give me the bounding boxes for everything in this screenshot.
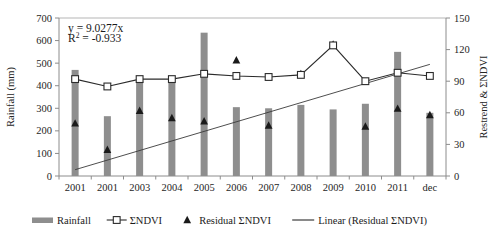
x-axis-tick-label: 2011 [387,182,408,193]
right-axis-tick-label: 60 [454,107,465,118]
legend-label: Residual ΣNDVI [199,215,271,226]
legend-item: ΣNDVI [107,215,163,226]
ndvi-square-marker [426,73,433,80]
ndvi-square-marker [265,74,272,81]
ndvi-square-marker [394,69,401,76]
ndvi-square-marker [233,73,240,80]
left-axis-tick-label: 500 [36,58,52,69]
rainfall-bar [297,105,304,176]
right-axis-tick-label: 90 [454,76,465,87]
ndvi-square-marker [362,78,369,85]
left-axis-tick-label: 700 [36,13,52,24]
right-axis-tick-label: 0 [454,171,459,182]
residual-triangle-marker [233,56,241,63]
rainfall-bar [426,113,433,176]
ndvi-square-marker [297,71,304,78]
ndvi-square-marker [168,76,175,83]
right-axis-tick-label: 150 [454,13,470,24]
x-axis-tick-label: 2010 [355,182,376,193]
left-axis-tick-label: 400 [36,80,52,91]
ndvi-square-marker [136,76,143,83]
rainfall-bar [233,107,240,176]
x-axis-tick-label: 2004 [161,182,183,193]
legend-label: ΣNDVI [130,215,163,226]
legend-label: Rainfall [57,215,91,226]
rainfall-bar [168,82,175,176]
x-axis-tick-label: 2008 [290,182,311,193]
legend-label: Linear (Residual ΣNDVI) [318,215,427,227]
left-axis-tick-label: 300 [36,103,52,114]
ndvi-square-marker [201,70,208,77]
legend-item: Rainfall [32,215,91,226]
ndvi-square-marker [104,83,111,90]
legend-marker-ndvi [113,217,120,224]
residual-triangles [71,40,433,153]
rainfall-bar [265,108,272,176]
x-axis-tick-label: 2007 [258,182,279,193]
left-axis-title: Rainfall (mm) [5,67,17,127]
rainfall-bar [362,104,369,176]
ndvi-square-marker [72,76,79,83]
left-axis-tick-label: 0 [47,171,52,182]
linear-trend-line [75,64,430,169]
right-axis-tick-label: 120 [454,44,470,55]
rainfall-bar [330,109,337,176]
chart-container: 0100200300400500600700Rainfall (mm)03060… [0,0,494,239]
x-axis-tick-label: 2001 [97,182,118,193]
legend-item: Linear (Residual ΣNDVI) [292,215,427,227]
legend-item: Residual ΣNDVI [183,215,271,226]
left-axis-tick-label: 100 [36,148,52,159]
chart-legend: RainfallΣNDVIResidual ΣNDVILinear (Resid… [32,215,427,227]
x-axis-tick-label: 2003 [129,182,150,193]
right-axis-title: Restrend & ΣNDVI [478,55,489,139]
rainfall-bar [201,33,208,176]
rainfall-ndvi-chart: 0100200300400500600700Rainfall (mm)03060… [0,0,494,239]
r-squared-label: R2 = -0.933 [68,31,122,44]
left-axis-tick-label: 200 [36,125,52,136]
x-axis-tick-label: 2001 [65,182,86,193]
ndvi-square-marker [330,42,337,49]
x-axis-tick-label: 2009 [323,182,344,193]
rainfall-bar [136,81,143,176]
left-axis-tick-label: 600 [36,35,52,46]
x-axis-tick-label: 2006 [226,182,247,193]
legend-marker-residual [183,216,191,223]
right-axis-tick-label: 30 [454,139,465,150]
legend-swatch-rainfall [32,218,53,224]
x-axis-tick-label: dec [423,182,438,193]
x-axis-tick-label: 2005 [194,182,215,193]
